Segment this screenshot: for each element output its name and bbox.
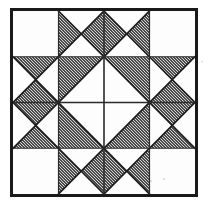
scan-speck [201,60,203,63]
figure-canvas: Four-Patch Star Quilt Block [0,0,209,210]
scan-speck [150,180,152,182]
quilt-block-frame: Four-Patch Star Quilt Block [10,8,198,197]
scan-speck [163,178,165,180]
quilt-block-svg: Four-Patch Star Quilt Block [10,8,198,197]
